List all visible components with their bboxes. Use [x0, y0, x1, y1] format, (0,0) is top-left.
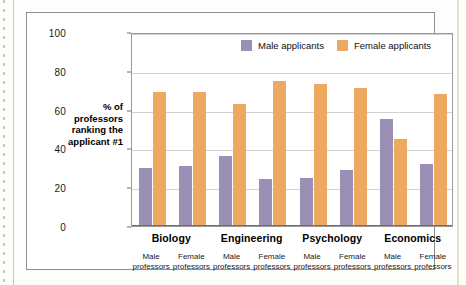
category-label-economics: Economics [373, 232, 454, 244]
category-label-engineering: Engineering [212, 232, 293, 244]
gridline-80 [132, 73, 452, 74]
page-edge-line-left [13, 0, 14, 285]
subgroup-label-economics-male: Maleprofessors [373, 252, 413, 271]
subgroup-label-biology-female: Femaleprofessors [171, 252, 211, 271]
bar-engineering-maleprof-male-applicants [219, 156, 232, 226]
y-tick-label-20: 20 [26, 183, 66, 194]
subgroup-label-line1: Female [252, 252, 292, 262]
subgroup-label-line1: Male [212, 252, 252, 262]
subgroup-label-economics-female: Femaleprofessors [413, 252, 453, 271]
subgroup-label-line1: Male [131, 252, 171, 262]
subgroup-label-psychology-female: Femaleprofessors [332, 252, 372, 271]
legend-label-male-applicants: Male applicants [258, 40, 324, 51]
gridline-60 [132, 112, 452, 113]
bar-psychology-maleprof-male-applicants [300, 178, 313, 227]
subgroup-label-line2: professors [131, 262, 171, 272]
bar-economics-femaleprof-female-applicants [434, 94, 447, 226]
legend-label-female-applicants: Female applicants [354, 40, 431, 51]
gridline-100 [132, 34, 452, 35]
y-tick-label-40: 40 [26, 144, 66, 155]
y-tick-label-0: 0 [26, 222, 66, 233]
plot-area [131, 33, 453, 227]
chart-figure-frame: % ofprofessorsranking theapplicant #1 02… [26, 12, 435, 270]
subgroup-label-psychology-male: Maleprofessors [292, 252, 332, 271]
y-axis-title-line-2: ranking the [53, 124, 123, 136]
bar-biology-maleprof-female-applicants [153, 92, 166, 226]
bar-biology-femaleprof-male-applicants [179, 166, 192, 226]
bar-economics-maleprof-female-applicants [394, 139, 407, 226]
x-axis-line [132, 225, 452, 226]
bar-psychology-femaleprof-female-applicants [354, 88, 367, 226]
bar-biology-femaleprof-female-applicants [193, 92, 206, 226]
bar-economics-femaleprof-male-applicants [420, 164, 433, 226]
chart-legend: Male applicantsFemale applicants [241, 40, 431, 51]
legend-item-female-applicants: Female applicants [337, 40, 431, 51]
subgroup-label-line2: professors [373, 262, 413, 272]
page-edge-line-right [457, 0, 459, 285]
subgroup-label-line2: professors [252, 262, 292, 272]
legend-swatch-female-applicants [337, 40, 348, 51]
subgroup-label-line1: Female [171, 252, 211, 262]
subgroup-label-line1: Female [413, 252, 453, 262]
subgroup-label-line1: Male [292, 252, 332, 262]
bar-psychology-femaleprof-male-applicants [340, 170, 353, 226]
subgroup-label-line2: professors [212, 262, 252, 272]
legend-item-male-applicants: Male applicants [241, 40, 324, 51]
bar-engineering-femaleprof-female-applicants [273, 81, 286, 227]
subgroup-label-line2: professors [332, 262, 372, 272]
y-tick-label-80: 80 [26, 66, 66, 77]
subgroup-label-line1: Male [373, 252, 413, 262]
page-edge-artifact-left [3, 0, 5, 285]
subgroup-label-engineering-female: Femaleprofessors [252, 252, 292, 271]
subgroup-label-line2: professors [292, 262, 332, 272]
category-label-biology: Biology [131, 232, 212, 244]
y-tick-label-100: 100 [26, 28, 66, 39]
bar-engineering-maleprof-female-applicants [233, 104, 246, 226]
legend-swatch-male-applicants [241, 40, 252, 51]
category-label-psychology: Psychology [292, 232, 373, 244]
subgroup-label-biology-male: Maleprofessors [131, 252, 171, 271]
bar-engineering-femaleprof-male-applicants [259, 179, 272, 226]
bar-biology-maleprof-male-applicants [139, 168, 152, 226]
subgroup-label-line1: Female [332, 252, 372, 262]
subgroup-label-line2: professors [171, 262, 211, 272]
subgroup-label-line2: professors [413, 262, 453, 272]
subgroup-label-engineering-male: Maleprofessors [212, 252, 252, 271]
bar-psychology-maleprof-female-applicants [314, 84, 327, 226]
bar-economics-maleprof-male-applicants [380, 119, 393, 226]
y-tick-label-60: 60 [26, 105, 66, 116]
